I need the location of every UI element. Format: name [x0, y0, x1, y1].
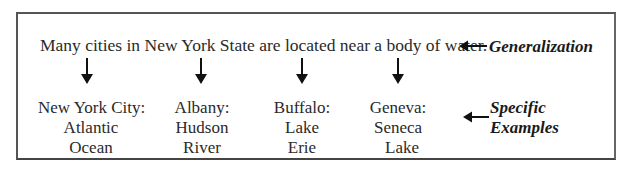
water-body: Seneca: [362, 118, 434, 138]
down-arrow-icon: [79, 58, 95, 84]
water-body: River: [165, 138, 239, 158]
water-body: Erie: [272, 138, 332, 158]
left-arrow-icon: [463, 110, 489, 124]
water-body: Hudson: [165, 118, 239, 138]
city-name: Albany:: [165, 98, 239, 118]
left-arrow-icon: [459, 39, 487, 53]
specific-examples-label: Specific Examples: [490, 98, 559, 138]
example-albany: Albany: Hudson River: [165, 98, 239, 158]
city-name: New York City:: [38, 98, 144, 118]
generalization-sentence: Many cities in New York State are locate…: [40, 35, 487, 56]
example-nyc: New York City: Atlantic Ocean: [38, 98, 144, 158]
example-buffalo: Buffalo: Lake Erie: [272, 98, 332, 158]
water-body: Lake: [362, 138, 434, 158]
down-arrow-icon: [390, 58, 406, 84]
example-geneva: Geneva: Seneca Lake: [362, 98, 434, 158]
water-body: Atlantic: [38, 118, 144, 138]
water-body: Ocean: [38, 138, 144, 158]
down-arrow-icon: [294, 58, 310, 84]
water-body: Lake: [272, 118, 332, 138]
down-arrow-icon: [193, 58, 209, 84]
specific-label-line2: Examples: [490, 118, 559, 138]
city-name: Geneva:: [362, 98, 434, 118]
generalization-label: Generalization: [489, 37, 593, 57]
specific-label-line1: Specific: [490, 98, 559, 118]
city-name: Buffalo:: [272, 98, 332, 118]
